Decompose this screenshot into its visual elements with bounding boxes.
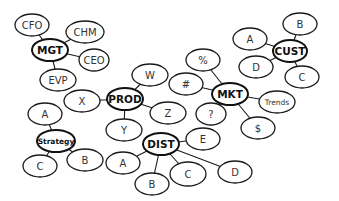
leaf-node-dist-a: A bbox=[106, 152, 140, 174]
leaf-node-dist-e: E bbox=[186, 128, 220, 150]
node-label: Trends bbox=[264, 98, 290, 107]
node-label: Y bbox=[120, 125, 128, 136]
leaf-node-cust-c: C bbox=[285, 66, 319, 88]
node-label: Z bbox=[165, 108, 172, 119]
leaf-node-mkt-hash: # bbox=[169, 73, 203, 95]
node-label: MKT bbox=[217, 88, 244, 100]
leaf-node-mgt-chm: CHM bbox=[66, 21, 104, 43]
leaf-node-dist-b: B bbox=[135, 173, 169, 195]
leaf-node-prod-y: Y bbox=[106, 119, 142, 141]
node-label: % bbox=[198, 55, 208, 66]
mind-map-diagram: CFOCHMCEOEVPMGTWXZYPROD%#?$TrendsMKTBADC… bbox=[0, 0, 339, 201]
leaf-node-mkt-percent: % bbox=[186, 49, 220, 71]
node-label: C bbox=[299, 72, 306, 83]
hub-node-strategy: Strategy bbox=[37, 130, 75, 152]
leaf-node-mkt-trends: Trends bbox=[259, 91, 295, 113]
leaf-node-cust-b: B bbox=[283, 13, 317, 35]
node-label: C bbox=[37, 161, 44, 172]
hub-node-cust: CUST bbox=[273, 40, 307, 62]
node-label: A bbox=[247, 34, 254, 45]
node-label: X bbox=[79, 96, 86, 107]
node-label: C bbox=[185, 169, 192, 180]
node-label: CUST bbox=[275, 45, 307, 57]
node-label: CFO bbox=[22, 20, 43, 31]
leaf-node-prod-w: W bbox=[132, 64, 168, 86]
node-label: D bbox=[252, 62, 260, 73]
hub-node-mgt: MGT bbox=[32, 39, 68, 61]
leaf-node-dist-c: C bbox=[170, 162, 206, 186]
leaf-node-mkt-question: ? bbox=[196, 103, 226, 125]
hub-node-prod: PROD bbox=[107, 88, 143, 110]
node-label: E bbox=[200, 134, 206, 145]
leaf-node-mgt-cfo: CFO bbox=[15, 14, 49, 36]
node-label: DIST bbox=[147, 138, 175, 150]
node-label: # bbox=[182, 79, 190, 90]
hub-node-mkt: MKT bbox=[212, 83, 248, 105]
node-label: CEO bbox=[83, 55, 104, 66]
node-label: B bbox=[82, 155, 89, 166]
leaf-node-strategy-a: A bbox=[28, 103, 62, 125]
leaf-node-prod-z: Z bbox=[150, 102, 186, 124]
node-label: W bbox=[145, 70, 155, 81]
leaf-node-prod-x: X bbox=[64, 90, 100, 112]
node-label: A bbox=[42, 109, 49, 120]
leaf-node-strategy-b: B bbox=[67, 149, 103, 171]
node-label: B bbox=[149, 179, 156, 190]
leaf-node-mkt-dollar: $ bbox=[241, 117, 275, 139]
leaf-node-mgt-ceo: CEO bbox=[79, 49, 109, 71]
leaf-node-strategy-c: C bbox=[23, 155, 57, 177]
mind-map-canvas: CFOCHMCEOEVPMGTWXZYPROD%#?$TrendsMKTBADC… bbox=[0, 0, 339, 201]
node-label: D bbox=[231, 167, 239, 178]
leaf-node-cust-d: D bbox=[239, 56, 273, 78]
leaf-node-dist-d: D bbox=[218, 161, 252, 183]
node-label: PROD bbox=[108, 93, 142, 105]
node-label: $ bbox=[255, 123, 261, 134]
nodes-layer: CFOCHMCEOEVPMGTWXZYPROD%#?$TrendsMKTBADC… bbox=[15, 13, 319, 195]
node-label: B bbox=[297, 19, 304, 30]
node-label: Strategy bbox=[38, 137, 75, 146]
leaf-node-cust-a: A bbox=[233, 28, 267, 50]
node-label: EVP bbox=[48, 75, 67, 86]
node-label: MGT bbox=[37, 44, 64, 56]
node-label: A bbox=[120, 158, 127, 169]
hub-node-dist: DIST bbox=[143, 133, 179, 155]
node-label: CHM bbox=[73, 27, 96, 38]
node-label: ? bbox=[208, 109, 213, 120]
leaf-node-mgt-evp: EVP bbox=[40, 69, 76, 91]
